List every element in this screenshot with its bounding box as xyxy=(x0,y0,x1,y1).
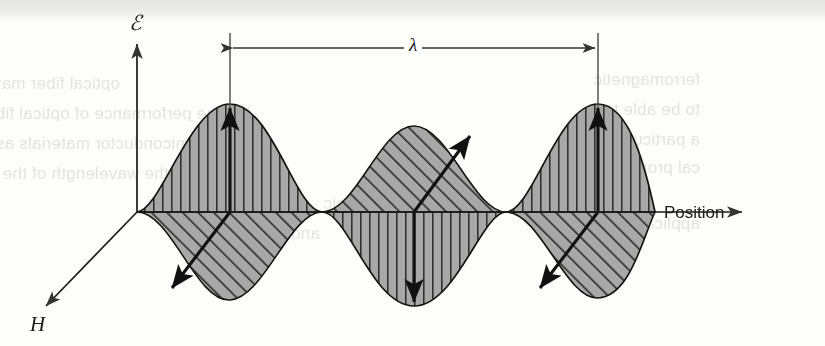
h-field-lobe-3 xyxy=(506,212,655,298)
magnetic-field-axis-line xyxy=(46,212,137,306)
electric-field-axis-label: ℰ xyxy=(129,11,142,36)
h-field-lobe-1 xyxy=(137,212,322,300)
position-axis-label: Position xyxy=(664,203,724,223)
e-field-lobe-3 xyxy=(506,104,655,212)
wavelength-label: λ xyxy=(404,34,422,56)
electromagnetic-wave-figure: optical fiber materials in communication… xyxy=(0,0,825,346)
h-field-lobe-2 xyxy=(322,126,506,212)
magnetic-field-axis-label: H xyxy=(30,312,45,337)
